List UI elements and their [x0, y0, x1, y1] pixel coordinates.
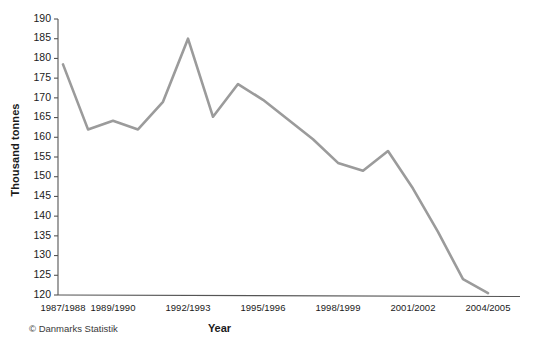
x-tick-label: 1998/1999 [316, 302, 361, 313]
y-tick-label-group: 1201251301351401451501551601651701751801… [33, 12, 51, 300]
y-tick-label: 150 [33, 169, 51, 181]
x-axis-title-label: Year [208, 322, 231, 334]
line-chart-figure: Thousand tonnes 120125130135140145150155… [0, 0, 555, 356]
y-tick-label: 165 [33, 110, 51, 122]
data-series-line [63, 39, 488, 293]
y-tick-label: 120 [33, 288, 51, 300]
source-attribution: © Danmarks Statistik [29, 323, 118, 334]
y-tick-label: 155 [33, 150, 51, 162]
y-tick-label: 125 [33, 268, 51, 280]
x-tick-label: 1992/1993 [166, 302, 211, 313]
y-tick-label: 190 [33, 12, 51, 24]
y-tick-label: 145 [33, 189, 51, 201]
y-tick-label: 140 [33, 209, 51, 221]
x-tick-label: 1987/1988 [41, 302, 86, 313]
y-tick-mark-group [54, 19, 58, 295]
y-tick-label: 185 [33, 31, 51, 43]
y-tick-label: 170 [33, 91, 51, 103]
x-tick-label: 1989/1990 [91, 302, 136, 313]
x-tick-label: 2001/2002 [391, 302, 436, 313]
y-tick-label: 130 [33, 248, 51, 260]
y-tick-label: 160 [33, 130, 51, 142]
x-tick-label: 2004/2005 [466, 302, 511, 313]
x-tick-label-group: 1987/19881989/19901992/19931995/19961998… [41, 302, 511, 313]
y-tick-label: 180 [33, 51, 51, 63]
x-axis-line [58, 295, 520, 297]
y-tick-label: 175 [33, 71, 51, 83]
x-tick-label: 1995/1996 [241, 302, 286, 313]
plot-area: 1201251301351401451501551601651701751801… [0, 0, 555, 320]
y-tick-label: 135 [33, 229, 51, 241]
